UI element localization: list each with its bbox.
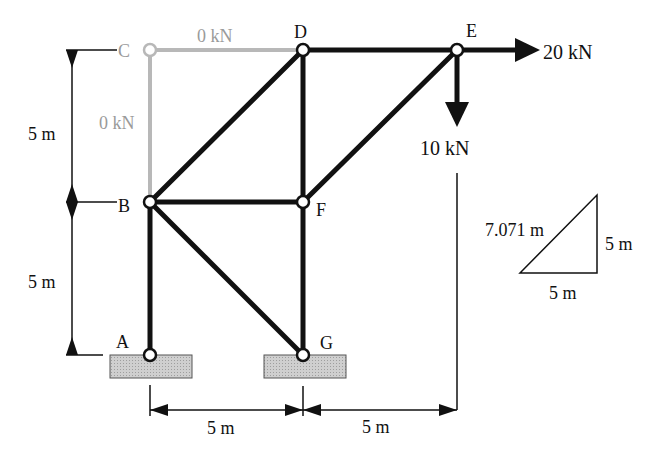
load-20kn-arrow xyxy=(457,38,540,62)
node-label-d: D xyxy=(294,22,307,42)
node-label-g: G xyxy=(320,333,333,353)
member-bg xyxy=(150,202,303,355)
node-label-f: F xyxy=(316,200,326,220)
dim-label-vertical-lower: 5 m xyxy=(28,272,56,292)
joint-e xyxy=(451,44,463,56)
member-label-bc: 0 kN xyxy=(99,113,135,133)
joint-g xyxy=(297,349,309,361)
node-label-c: C xyxy=(118,41,130,61)
triangle-label-vertical: 5 m xyxy=(605,234,633,254)
joint-b xyxy=(144,196,156,208)
dim-label-horizontal-right: 5 m xyxy=(362,417,390,437)
triangle-label-hypotenuse: 7.071 m xyxy=(485,220,544,240)
dim-label-horizontal-left: 5 m xyxy=(207,418,235,438)
member-fe xyxy=(303,50,457,202)
load-label-20kn: 20 kN xyxy=(543,41,592,63)
triangle-label-horizontal: 5 m xyxy=(549,283,577,303)
node-label-e: E xyxy=(466,21,477,41)
joint-d xyxy=(297,44,309,56)
truss-diagram: A B C D E F G 0 kN 0 kN 20 kN 10 kN 5 m … xyxy=(0,0,655,462)
joint-c xyxy=(144,44,156,56)
dim-label-vertical-upper: 5 m xyxy=(28,124,56,144)
load-label-10kn: 10 kN xyxy=(420,137,469,159)
node-label-a: A xyxy=(116,332,129,352)
member-bd xyxy=(150,50,303,202)
joint-f xyxy=(297,196,309,208)
joint-a xyxy=(144,349,156,361)
node-label-b: B xyxy=(118,196,130,216)
vertical-dimension xyxy=(66,50,117,355)
member-label-cd: 0 kN xyxy=(197,26,233,46)
